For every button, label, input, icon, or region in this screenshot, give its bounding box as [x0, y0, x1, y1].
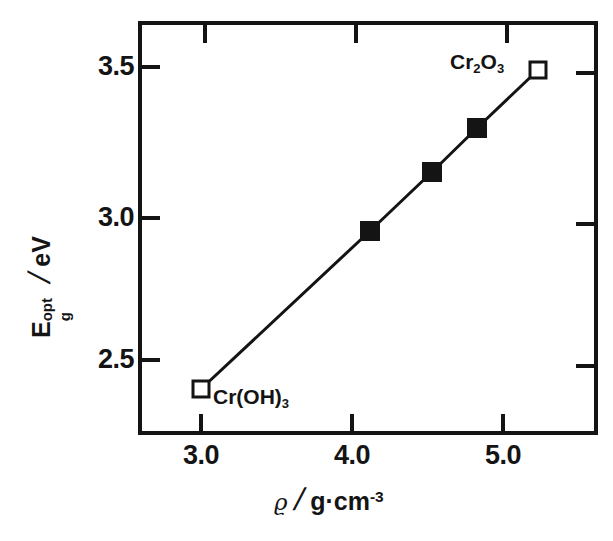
x-axis-title: ϱ/g·cm-3	[274, 482, 384, 518]
x-axis-ticks-bottom	[201, 414, 503, 433]
annotation-cr2o3-sub1: 2	[473, 61, 480, 76]
x-axis-unit-exponent: -3	[370, 488, 384, 505]
x-axis-unit: g·cm	[310, 487, 370, 515]
figure-container: 3.5 3.0 2.5 3.0 4.0 5.0 ϱ/g·cm-3 Eoptg/e…	[0, 0, 613, 541]
annotation-cr2o3-sub2: 3	[497, 61, 504, 76]
y-axis-title: Eoptg/eV	[22, 236, 58, 338]
annotation-cr2o3-mid: O	[481, 50, 497, 73]
annotation-cr-oh-3-main: Cr(OH)	[213, 385, 282, 408]
data-point-open-square	[530, 62, 546, 78]
y-tick-label-2-5: 2.5	[64, 344, 134, 375]
annotation-cr2o3: Cr2O3	[450, 50, 504, 76]
y-axis-symbol-superscript: opt	[38, 298, 55, 321]
x-tick-label-5-0: 5.0	[463, 440, 543, 471]
x-axis-ticks-top	[205, 23, 507, 43]
y-tick-label-3-0: 3.0	[64, 202, 134, 233]
y-axis-unit: eV	[27, 236, 55, 267]
annotation-cr2o3-main: Cr	[450, 50, 473, 73]
y-axis-ticks-right	[576, 73, 596, 366]
data-point-filled-square	[467, 118, 487, 138]
y-axis-symbol: E	[27, 321, 55, 338]
data-point-open-square	[193, 381, 209, 397]
annotation-cr-oh-3: Cr(OH)3	[213, 385, 289, 411]
data-point-filled-square	[422, 162, 442, 182]
x-tick-label-3-0: 3.0	[161, 440, 241, 471]
data-point-filled-square	[360, 221, 380, 241]
annotation-cr-oh-3-sub: 3	[282, 396, 289, 411]
y-axis-ticks-left	[140, 67, 160, 360]
y-tick-label-3-5: 3.5	[64, 51, 134, 82]
x-tick-label-4-0: 4.0	[312, 440, 392, 471]
y-axis-symbol-subscript: g	[56, 312, 73, 321]
